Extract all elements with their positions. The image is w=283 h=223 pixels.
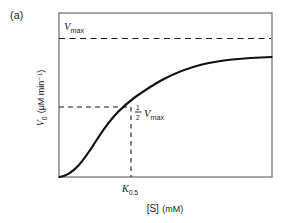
svg-text:V0(μM min⁻¹): V0(μM min⁻¹) — [35, 70, 48, 127]
enzyme-kinetics-figure: (a) Vmax 1 2 Vmax K0.5 — [0, 0, 283, 223]
y-axis-units: (μM min⁻¹) — [36, 70, 46, 114]
half-vmax-numerator: 1 — [136, 104, 140, 111]
y-axis-subscript: 0 — [41, 116, 48, 120]
x-axis-units: (mM) — [162, 204, 183, 214]
y-axis-label: V0(μM min⁻¹) — [35, 70, 48, 127]
k-half-label: K0.5 — [121, 183, 138, 196]
half-vmax-denominator: 2 — [136, 114, 140, 121]
k-half-subscript: 0.5 — [129, 189, 139, 196]
half-vmax-subscript: max — [150, 113, 164, 122]
vmax-subscript: max — [70, 26, 84, 35]
x-axis-variable: [S] — [147, 203, 159, 214]
x-axis-label: [S](mM) — [147, 203, 184, 214]
plot-frame — [59, 13, 272, 177]
plot-canvas: Vmax 1 2 Vmax K0.5 [S](mM) V0(μM min⁻¹) — [0, 0, 283, 223]
